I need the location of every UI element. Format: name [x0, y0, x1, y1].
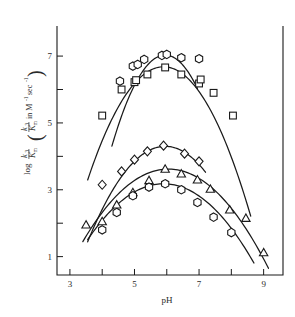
data-point-diamond [130, 155, 138, 164]
data-point-square [99, 112, 106, 119]
data-point-square [144, 71, 151, 78]
y-tick-label: 5 [48, 118, 53, 128]
x-tick-label: 9 [261, 279, 266, 289]
data-point-diamond [118, 167, 126, 176]
data-point-hexagon [210, 213, 217, 221]
y-axis-title: log k 3 K ' m ( k 3 K ' m in M -1 sec -1… [19, 70, 47, 175]
data-point-hexagon [145, 183, 152, 191]
data-point-square [133, 77, 140, 84]
data-point-hexagon [178, 54, 185, 62]
data-point-square [178, 71, 185, 78]
data-point-hexagon [113, 208, 120, 216]
y-axis-title-log: log [22, 163, 32, 175]
y-axis-paren-close: ) [24, 70, 47, 77]
fit-curve-curve-2-squares [88, 67, 251, 216]
data-point-hexagon [163, 50, 170, 58]
y-axis-tick-labels: 1357 [48, 51, 53, 262]
x-axis-ticks [70, 269, 264, 275]
x-tick-label: 3 [68, 279, 73, 289]
data-point-hexagon [178, 186, 185, 194]
y-tick-label: 7 [48, 51, 53, 61]
plot-frame [57, 26, 283, 275]
data-point-diamond [160, 141, 168, 150]
data-point-diamond [98, 180, 106, 189]
data-point-markers [82, 50, 268, 256]
data-point-square [197, 76, 204, 83]
ph-rate-profile-chart: 3579 1357 pH log k 3 K ' m ( k 3 K ' m i… [0, 0, 295, 317]
data-point-triangle [242, 214, 250, 221]
y-axis-paren-sec: sec [25, 84, 34, 95]
y-tick-label: 1 [48, 252, 53, 262]
x-tick-label: 7 [197, 279, 202, 289]
data-point-hexagon [228, 228, 235, 236]
data-point-diamond [143, 147, 151, 156]
y-axis-paren-k-den-sub: m [32, 120, 38, 125]
data-point-hexagon [129, 192, 136, 200]
data-point-hexagon [194, 198, 201, 206]
data-point-hexagon [116, 77, 123, 85]
data-point-square [210, 89, 217, 96]
fit-curve-curve-5-circles-lower [88, 184, 254, 263]
x-tick-label: 5 [132, 279, 137, 289]
x-axis-tick-labels: 3579 [68, 279, 267, 289]
data-point-hexagon [141, 55, 148, 63]
data-point-hexagon [195, 55, 202, 63]
data-point-triangle [98, 217, 106, 224]
x-axis-title: pH [162, 295, 174, 305]
data-point-square [162, 64, 169, 71]
data-point-square [230, 112, 237, 119]
data-point-diamond [195, 157, 203, 166]
data-point-hexagon [162, 180, 169, 188]
y-axis-paren-open: ( [24, 134, 47, 141]
fitted-curves [83, 55, 269, 268]
y-axis-ticks [57, 56, 63, 257]
y-axis-paren-in-m: in M [25, 104, 34, 119]
data-point-square [118, 86, 125, 93]
data-point-triangle [259, 248, 267, 255]
data-point-triangle [82, 221, 90, 228]
y-tick-label: 3 [48, 185, 53, 195]
data-point-hexagon [99, 226, 106, 234]
y-axis-paren-exponent-1: -1 [23, 96, 29, 101]
y-axis-title-k-den-sub: m [32, 147, 38, 152]
figure-container: 3579 1357 pH log k 3 K ' m ( k 3 K ' m i… [0, 0, 295, 317]
